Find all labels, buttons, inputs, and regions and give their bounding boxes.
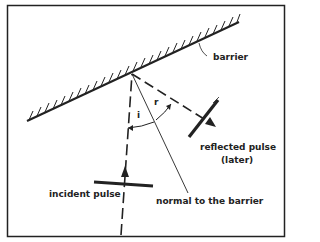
label-angle-r: r xyxy=(154,97,158,108)
incident-ray xyxy=(121,74,132,235)
reflected-arrow-icon xyxy=(205,117,216,127)
barrier-leader xyxy=(199,43,207,56)
label-barrier: barrier xyxy=(213,52,248,63)
label-reflected-later: (later) xyxy=(221,155,253,166)
label-normal: normal to the barrier xyxy=(156,196,263,207)
label-incident-pulse: incident pulse xyxy=(49,189,121,200)
incident-arrow-icon xyxy=(121,166,129,177)
incident-pulse xyxy=(94,182,153,186)
barrier-line xyxy=(27,22,239,121)
label-angle-i: i xyxy=(137,110,140,121)
label-reflected-pulse: reflected pulse xyxy=(200,142,276,153)
reflected-pulse xyxy=(189,100,218,137)
